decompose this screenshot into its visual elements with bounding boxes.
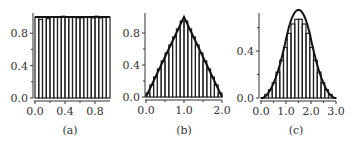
y-tick-label: 0.4 <box>11 60 29 73</box>
y-tick-label: 0.0 <box>11 92 29 105</box>
panel-caption: (b) <box>176 124 192 137</box>
panel-caption: (a) <box>62 124 77 137</box>
y-tick-label: 0.4 <box>237 45 255 58</box>
x-tick-label: 0.0 <box>252 105 270 118</box>
histogram-bar <box>106 17 110 98</box>
y-tick-label: 0.0 <box>123 91 141 104</box>
histogram-figure: 0.00.40.80.00.40.8(a)0.00.40.80.01.02.0(… <box>0 0 356 144</box>
y-tick-label: 0.0 <box>237 92 255 105</box>
panel-caption: (c) <box>289 124 304 137</box>
y-tick-label: 0.8 <box>11 27 29 40</box>
histogram-panel-c: 0.00.40.01.02.03.0(c) <box>237 10 345 137</box>
x-tick-label: 0.0 <box>26 105 44 118</box>
x-tick-label: 2.0 <box>213 104 231 117</box>
x-tick-label: 1.0 <box>277 105 295 118</box>
y-tick-label: 0.8 <box>123 27 141 40</box>
x-tick-label: 1.0 <box>175 104 193 117</box>
histogram-panel-b: 0.00.40.80.01.02.0(b) <box>123 13 231 137</box>
histogram-panel-a: 0.00.40.80.00.40.8(a) <box>11 13 111 137</box>
x-tick-label: 0.0 <box>137 104 155 117</box>
x-tick-label: 3.0 <box>327 105 345 118</box>
y-tick-label: 0.4 <box>123 59 141 72</box>
x-tick-label: 2.0 <box>302 105 320 118</box>
x-tick-label: 0.8 <box>86 105 104 118</box>
x-tick-label: 0.4 <box>56 105 74 118</box>
